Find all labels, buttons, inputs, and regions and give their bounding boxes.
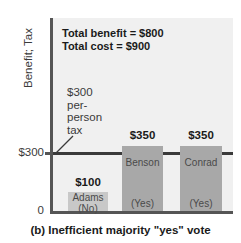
tax-line-annotation: $300 per- person tax (67, 86, 102, 136)
bar-value-label-conrad: $350 (180, 129, 222, 141)
y-tick-label-300: $300 (2, 146, 44, 158)
y-tick-300 (45, 152, 53, 155)
bar-value-label-benson: $350 (122, 129, 163, 141)
totals-annotation: Total benefit = $800 Total cost = $900 (62, 27, 164, 53)
total-cost-text: Total cost = $900 (62, 40, 164, 53)
bar-vote-label-adams: (No) (68, 203, 108, 214)
y-axis-line (50, 18, 53, 214)
bar-name-label-adams: Adams (68, 192, 108, 203)
bar-vote-label-benson: (Yes) (122, 198, 163, 209)
tax-annotation-line-3: person (67, 111, 102, 124)
tax-annotation-line-1: $300 (67, 86, 102, 99)
chart-figure: Benefit; Tax Total benefit = $800 Total … (0, 0, 241, 243)
bar-vote-label-conrad: (Yes) (180, 198, 222, 209)
total-benefit-text: Total benefit = $800 (62, 27, 164, 40)
y-axis-title: Benefit; Tax (22, 6, 34, 110)
bar-name-label-conrad: Conrad (180, 157, 222, 168)
y-tick-label-0: 0 (24, 204, 44, 216)
figure-caption: (b) Inefficient majority "yes" vote (0, 224, 241, 236)
tax-annotation-line-4: tax (67, 124, 102, 137)
tax-annotation-line-2: per- (67, 99, 102, 112)
bar-value-label-adams: $100 (68, 176, 108, 188)
bar-name-label-benson: Benson (122, 157, 163, 168)
